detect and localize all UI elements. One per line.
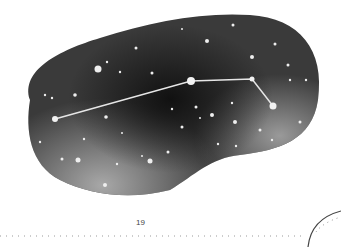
corner-dotted-arc <box>316 217 341 232</box>
night-sky-blob <box>0 0 341 247</box>
page-number: 19 <box>136 218 145 227</box>
constellation-illustration <box>0 0 341 247</box>
corner-arc <box>308 211 341 247</box>
